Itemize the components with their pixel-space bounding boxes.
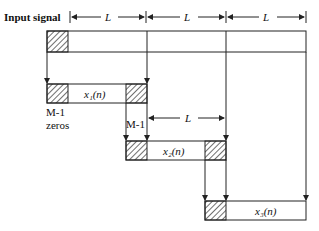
zeros-label-line1: M-1 [46, 106, 65, 118]
block-x1: x₁(n) [47, 84, 147, 103]
input-signal-label: Input signal [4, 11, 61, 23]
dimension-label-l3: L [262, 11, 269, 23]
zeros-label-line2: zeros [46, 119, 69, 131]
dimension-label-l2: L [183, 11, 190, 23]
block-x2: x₂(n) [126, 141, 226, 160]
block-x3: x₃(n) [205, 201, 306, 220]
block-x3-label: x₃(n) [254, 205, 277, 218]
dimension-label-l1: L [104, 11, 111, 23]
block-x2-label: x₂(n) [162, 145, 185, 158]
mid-dimension-label: L [184, 112, 191, 124]
input-signal-strip [47, 31, 306, 52]
segment-arrows [47, 31, 306, 200]
overlap-label: M-1 [126, 118, 145, 130]
overlap-save-diagram: Input signal L L L x₁(n) M-1 [0, 0, 319, 231]
block-x1-label: x₁(n) [83, 88, 106, 101]
